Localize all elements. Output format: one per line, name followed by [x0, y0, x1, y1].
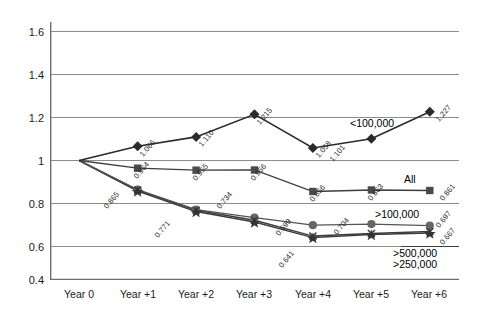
y-axis-tick-label: 1.6 — [0, 27, 44, 38]
series-label-over100k: >100,000 — [375, 209, 419, 220]
series-label-over250k: >250,000 — [393, 259, 437, 270]
y-axis-tick-label: 0.4 — [0, 275, 44, 286]
y-axis-tick-label: 0.8 — [0, 199, 44, 210]
x-axis-tick-label: Year +6 — [394, 289, 464, 300]
y-axis-tick-label: 1 — [0, 156, 44, 167]
axis-lines — [50, 22, 459, 280]
y-axis-tick-label: 1.4 — [0, 70, 44, 81]
chart-container: 1.6 1.4 1.2 1 0.8 0.6 0.4 — [0, 0, 483, 313]
y-axis-tick-label: 1.2 — [0, 113, 44, 124]
series-label-under100k: <100,000 — [350, 118, 394, 129]
series-label-all: All — [404, 174, 416, 185]
plot-area — [50, 22, 459, 280]
y-axis-tick-label: 0.6 — [0, 242, 44, 253]
